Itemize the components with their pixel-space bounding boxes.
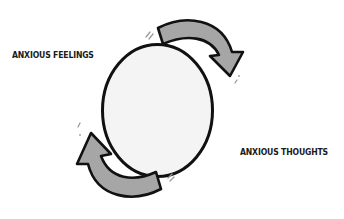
diagram-canvas bbox=[0, 0, 344, 219]
anxious-feelings-label: ANXIOUS FEELINGS bbox=[12, 50, 94, 60]
anxiety-cycle-diagram: ANXIOUS FEELINGS ANXIOUS THOUGHTS bbox=[0, 0, 344, 219]
anxious-thoughts-label: ANXIOUS THOUGHTS bbox=[240, 147, 328, 157]
center-circle bbox=[103, 45, 213, 177]
